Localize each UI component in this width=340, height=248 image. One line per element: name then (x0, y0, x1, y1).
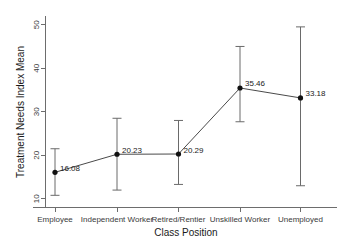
x-tick-label: Unskilled Worker (210, 215, 271, 224)
error-bars-group (51, 27, 306, 195)
data-point-marker (237, 85, 242, 90)
data-point-marker (114, 152, 119, 157)
data-value-label: 35.46 (245, 79, 266, 88)
data-point-markers (52, 85, 303, 175)
x-axis-tick-marks (55, 208, 301, 213)
y-tick-label: 10 (32, 194, 41, 203)
data-value-label: 33.18 (306, 89, 327, 98)
x-axis-group: EmployeeIndependent WorkerRetired/Rentie… (33, 208, 337, 239)
x-tick-label: Unemployed (278, 215, 323, 224)
data-value-label: 20.29 (184, 146, 205, 155)
y-axis-group: 1020304050 Treatment Needs Index Mean (15, 16, 46, 207)
data-series-group: 16.0820.2320.2935.4633.18 (51, 27, 327, 195)
data-point-marker (52, 170, 57, 175)
x-axis-tick-labels: EmployeeIndependent WorkerRetired/Rentie… (37, 215, 323, 224)
x-tick-label: Independent Worker (81, 215, 154, 224)
y-axis-tick-marks (41, 25, 46, 199)
data-point-marker (176, 151, 181, 156)
chart-container: 1020304050 Treatment Needs Index Mean Em… (0, 0, 340, 248)
y-axis-tick-labels: 1020304050 (32, 20, 41, 204)
line-chart-with-error-bars: 1020304050 Treatment Needs Index Mean Em… (0, 0, 340, 248)
x-tick-label: Retired/Rentier (152, 215, 206, 224)
data-value-label: 16.08 (60, 164, 81, 173)
y-tick-label: 30 (32, 107, 41, 116)
series-line (55, 88, 301, 172)
y-axis-title: Treatment Needs Index Mean (15, 46, 26, 178)
x-tick-label: Employee (37, 215, 73, 224)
data-point-marker (298, 95, 303, 100)
data-value-label: 20.23 (122, 146, 143, 155)
y-tick-label: 50 (32, 20, 41, 29)
x-axis-title: Class Position (154, 227, 217, 238)
y-tick-label: 20 (32, 150, 41, 159)
y-tick-label: 40 (32, 63, 41, 72)
